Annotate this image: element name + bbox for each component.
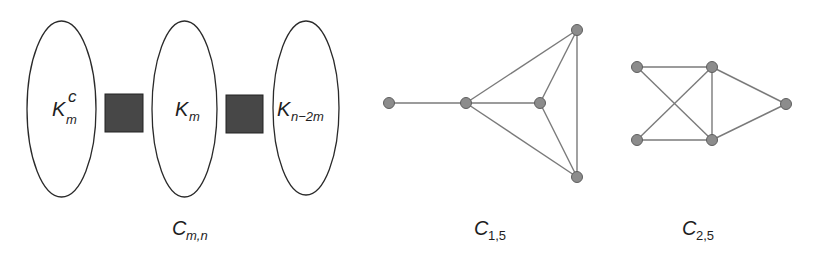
node-bl <box>632 135 643 146</box>
edge-b-d <box>466 30 577 103</box>
node-r <box>781 99 792 110</box>
label-kn-2m: K <box>277 98 292 120</box>
node-tl <box>632 62 643 73</box>
caption-c-2-5: C <box>682 217 697 239</box>
node-d <box>572 25 583 36</box>
label-km-sub: m <box>189 109 200 124</box>
node-a <box>384 98 395 109</box>
edge-tr-r <box>712 67 786 104</box>
caption-c-mn-sub: m,n <box>186 228 208 243</box>
label-km-complement: K <box>52 98 67 120</box>
connector-block-1 <box>105 94 143 132</box>
edge-b-e <box>466 103 577 177</box>
panel-c-mn: K c m K m K n−2m C m,n <box>27 21 339 243</box>
edge-c-e <box>540 103 577 177</box>
node-e <box>572 172 583 183</box>
caption-c-2-5-sub: 2,5 <box>696 228 714 243</box>
edge-c-d <box>540 30 577 103</box>
node-c <box>535 98 546 109</box>
label-kn-2m-sub: n−2m <box>291 109 324 124</box>
label-km: K <box>175 98 190 120</box>
caption-c-mn: C <box>172 217 187 239</box>
edges-c-2-5 <box>637 67 786 140</box>
edges-c-1-5 <box>389 30 577 177</box>
connector-block-2 <box>226 95 263 133</box>
label-km-complement-sup: c <box>68 87 77 106</box>
figure-canvas: K c m K m K n−2m C m,n C 1,5 <box>0 0 817 253</box>
panel-c-2-5: C 2,5 <box>632 62 792 244</box>
caption-c-1-5: C <box>474 217 489 239</box>
caption-c-1-5-sub: 1,5 <box>488 228 506 243</box>
node-br <box>707 135 718 146</box>
label-km-complement-sub: m <box>66 112 77 127</box>
node-b <box>461 98 472 109</box>
edge-br-r <box>712 104 786 140</box>
node-tr <box>707 62 718 73</box>
panel-c-1-5: C 1,5 <box>384 25 583 244</box>
